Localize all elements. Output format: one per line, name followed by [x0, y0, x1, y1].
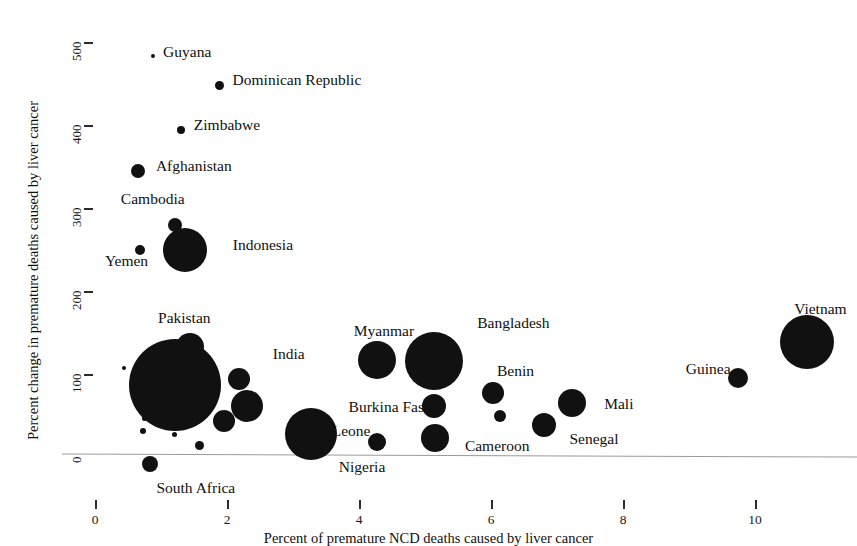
y-tick-mark-400: [84, 125, 93, 127]
point-label-pakistan: Pakistan: [158, 310, 211, 326]
y-tick-mark-300: [84, 208, 93, 210]
bubble-dominican-republic[interactable]: [215, 81, 224, 90]
point-label-bangladesh: Bangladesh: [477, 315, 549, 331]
point-label-sierra-leone: Sierra Leone: [291, 423, 371, 439]
x-tick-label-2: 2: [224, 513, 231, 527]
point-label-cameroon: Cameroon: [465, 438, 530, 454]
point-label-cambodia: Cambodia: [121, 191, 185, 207]
bubble-unlabeled-25[interactable]: [195, 441, 204, 450]
bubble-mali[interactable]: [558, 389, 586, 417]
x-tick-label-8: 8: [620, 513, 627, 527]
point-label-guinea: Guinea: [686, 361, 731, 377]
x-tick-mark-8: [623, 500, 625, 509]
y-tick-mark-100: [84, 374, 93, 376]
x-tick-mark-10: [755, 500, 757, 509]
plot-area: GuyanaDominican RepublicZimbabweAfghanis…: [0, 0, 857, 546]
x-axis-title: Percent of premature NCD deaths caused b…: [0, 531, 857, 546]
point-label-senegal: Senegal: [569, 431, 618, 447]
point-label-indonesia: Indonesia: [233, 237, 293, 253]
bubble-unlabeled-23[interactable]: [140, 428, 146, 434]
point-label-mali: Mali: [604, 396, 633, 412]
point-label-zimbabwe: Zimbabwe: [194, 117, 260, 133]
x-tick-mark-4: [359, 500, 361, 509]
point-label-dominican-republic: Dominican Republic: [233, 72, 362, 88]
y-tick-label-0: 0: [70, 457, 83, 489]
x-tick-mark-0: [95, 500, 97, 509]
y-tick-mark-500: [84, 42, 93, 44]
x-tick-mark-6: [491, 500, 493, 509]
x-tick-label-0: 0: [92, 513, 99, 527]
x-tick-label-4: 4: [356, 513, 363, 527]
point-label-benin: Benin: [497, 363, 534, 379]
bubble-unlabeled-24[interactable]: [172, 432, 177, 437]
x-tick-label-10: 10: [748, 513, 762, 527]
bubble-benin[interactable]: [482, 382, 504, 404]
point-label-india: India: [273, 346, 305, 362]
bubble-indonesia[interactable]: [163, 228, 207, 272]
bubble-unlabeled-27[interactable]: [231, 390, 263, 422]
point-label-burkina-faso: Burkina Faso: [349, 399, 432, 415]
point-label-guyana: Guyana: [163, 44, 211, 60]
bubble-unlabeled-29[interactable]: [213, 410, 235, 432]
bubble-afghanistan[interactable]: [131, 164, 145, 178]
bubble-guinea[interactable]: [728, 368, 748, 388]
bubble-guyana[interactable]: [151, 54, 155, 58]
bubble-unlabeled-26[interactable]: [494, 410, 506, 422]
y-tick-label-200: 200: [70, 291, 83, 323]
bubble-bangladesh[interactable]: [405, 332, 463, 390]
point-label-nigeria: Nigeria: [339, 459, 385, 475]
bubble-sierra-leone[interactable]: [368, 433, 386, 451]
bubble-south-africa[interactable]: [142, 456, 158, 472]
point-label-south-africa: South Africa: [156, 480, 235, 496]
y-tick-label-500: 500: [70, 42, 83, 74]
bubble-cameroon[interactable]: [421, 424, 449, 452]
point-label-yemen: Yemen: [105, 253, 148, 269]
x-tick-mark-2: [227, 500, 229, 509]
bubble-vietnam[interactable]: [780, 315, 834, 369]
bubble-unlabeled-28[interactable]: [228, 368, 250, 390]
point-label-myanmar: Myanmar: [354, 323, 414, 339]
y-tick-label-100: 100: [70, 374, 83, 406]
zero-baseline: [62, 453, 857, 457]
y-axis-title: Percent change in premature deaths cause…: [26, 101, 41, 440]
y-tick-label-400: 400: [70, 125, 83, 157]
point-label-vietnam: Vietnam: [794, 301, 846, 317]
bubble-senegal[interactable]: [532, 413, 556, 437]
point-label-afghanistan: Afghanistan: [156, 158, 232, 174]
bubble-unlabeled-21[interactable]: [122, 366, 126, 370]
bubble-chart-figure: GuyanaDominican RepublicZimbabweAfghanis…: [0, 0, 857, 546]
bubble-myanmar[interactable]: [358, 341, 396, 379]
x-tick-label-6: 6: [488, 513, 495, 527]
bubble-zimbabwe[interactable]: [177, 126, 185, 134]
y-tick-label-300: 300: [70, 208, 83, 240]
y-tick-mark-200: [84, 291, 93, 293]
